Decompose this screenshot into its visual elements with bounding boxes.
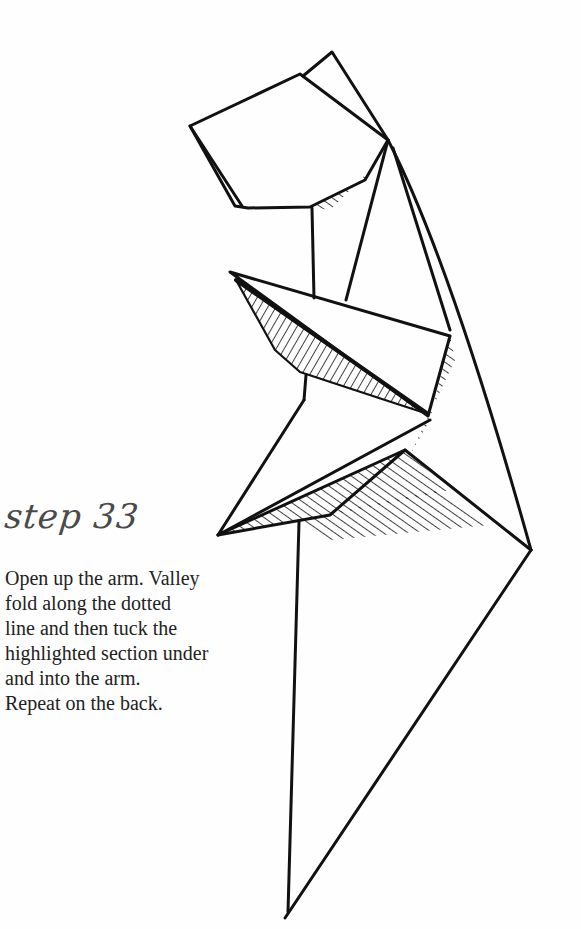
instruction-line: fold along the dotted (5, 591, 295, 616)
instruction-line: Repeat on the back. (5, 691, 295, 716)
instruction-line: and into the arm. (5, 666, 295, 691)
step-title: step 33 (3, 496, 141, 536)
instruction-line: line and then tuck the (5, 616, 295, 641)
arm-flap (230, 272, 450, 416)
instruction-line: Open up the arm. Valley (5, 566, 295, 591)
step-instructions: Open up the arm. Valley fold along the d… (5, 566, 295, 716)
body-right-edge (285, 550, 531, 918)
instruction-line: highlighted section under (5, 641, 295, 666)
origami-fold-diagram (0, 0, 581, 929)
instruction-page: step 33 Open up the arm. Valley fold alo… (0, 0, 581, 929)
